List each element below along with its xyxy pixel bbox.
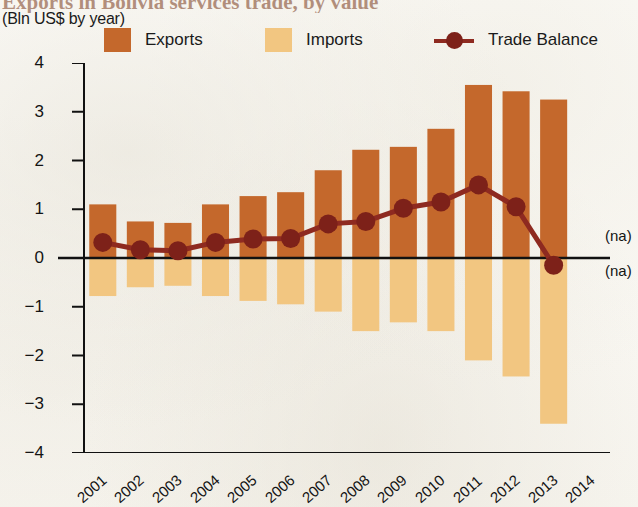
- trade-balance-point-2012: [507, 197, 526, 216]
- trade-balance-point-2005: [244, 229, 263, 248]
- y-tick-label-4: 4: [14, 53, 44, 73]
- legend-label-imports: Imports: [306, 30, 363, 50]
- bar-imports-2003: [164, 258, 191, 286]
- trade-balance-point-2006: [281, 229, 300, 248]
- bar-imports-2011: [465, 258, 492, 360]
- x-tick-label-2001: 2001: [73, 471, 109, 506]
- x-tick-label-2005: 2005: [224, 471, 260, 506]
- chart-legend: Exports Imports Trade Balance: [104, 27, 634, 53]
- y-tick-label-2: 2: [14, 151, 44, 171]
- legend-item-imports[interactable]: Imports: [265, 27, 363, 53]
- y-axis-tick-labels: 43210−1−2−3−4: [14, 63, 44, 453]
- trade-balance-point-2008: [356, 212, 375, 231]
- trade-balance-point-2001: [93, 233, 112, 252]
- bar-exports-2013: [540, 100, 567, 258]
- x-tick-label-2009: 2009: [374, 471, 410, 506]
- bar-imports-2010: [427, 258, 454, 331]
- x-tick-label-2012: 2012: [487, 471, 523, 506]
- x-tick-label-2013: 2013: [524, 471, 560, 506]
- x-tick-label-2002: 2002: [111, 471, 147, 506]
- imports-swatch-icon: [265, 28, 292, 52]
- bar-imports-2012: [503, 258, 530, 376]
- bar-exports-2006: [277, 192, 304, 258]
- chart-figure: Exports in Bolivia services trade, by va…: [0, 0, 638, 507]
- bar-exports-2008: [352, 150, 379, 258]
- trade-balance-point-2002: [131, 240, 150, 259]
- y-tick-label-0: 0: [14, 248, 44, 268]
- trade-balance-point-2009: [394, 199, 413, 218]
- bar-imports-2002: [127, 258, 154, 287]
- trade-balance-point-2011: [469, 175, 488, 194]
- bar-imports-2009: [390, 258, 417, 322]
- y-tick-label-neg1: −1: [14, 297, 44, 317]
- bar-exports-2007: [315, 170, 342, 258]
- y-tick-label-3: 3: [14, 102, 44, 122]
- na-label-bottom: (na): [605, 262, 632, 279]
- trade-balance-point-2007: [319, 214, 338, 233]
- chart-canvas: [58, 63, 610, 453]
- y-tick-label-1: 1: [14, 199, 44, 219]
- exports-swatch-icon: [104, 28, 131, 52]
- bar-exports-2005: [240, 196, 267, 258]
- trade-balance-line-marker-icon: [434, 28, 474, 52]
- trade-balance-point-2010: [431, 192, 450, 211]
- chart-subtitle: (Bln US$ by year): [2, 10, 125, 28]
- bar-exports-2011: [465, 85, 492, 258]
- x-tick-label-2003: 2003: [148, 471, 184, 506]
- bar-imports-2006: [277, 258, 304, 304]
- bar-imports-2013: [540, 258, 567, 424]
- trade-balance-point-2004: [206, 233, 225, 252]
- x-tick-label-2008: 2008: [336, 471, 372, 506]
- y-tick-label-neg2: −2: [14, 346, 44, 366]
- bar-imports-2005: [240, 258, 267, 301]
- plot-area: [58, 63, 610, 453]
- x-tick-label-2004: 2004: [186, 471, 222, 506]
- trade-balance-point-2013: [544, 256, 563, 275]
- bar-exports-2012: [503, 91, 530, 258]
- bar-imports-2007: [315, 258, 342, 312]
- imports-bars-group: [89, 258, 567, 424]
- x-tick-label-2010: 2010: [411, 471, 447, 506]
- x-tick-label-2007: 2007: [299, 471, 335, 506]
- x-tick-label-2006: 2006: [261, 471, 297, 506]
- legend-item-exports[interactable]: Exports: [104, 27, 203, 53]
- legend-label-trade-balance: Trade Balance: [488, 30, 598, 50]
- legend-item-trade-balance[interactable]: Trade Balance: [434, 27, 598, 53]
- bar-imports-2008: [352, 258, 379, 331]
- bar-imports-2001: [89, 258, 116, 296]
- trade-balance-point-2003: [168, 241, 187, 260]
- y-tick-label-neg3: −3: [14, 394, 44, 414]
- x-axis-tick-labels: 2001200220032004200520062007200820092010…: [0, 455, 638, 507]
- bar-imports-2004: [202, 258, 229, 296]
- x-tick-label-2014: 2014: [562, 471, 598, 506]
- legend-label-exports: Exports: [145, 30, 203, 50]
- na-label-top: (na): [605, 227, 632, 244]
- x-tick-label-2011: 2011: [449, 472, 485, 506]
